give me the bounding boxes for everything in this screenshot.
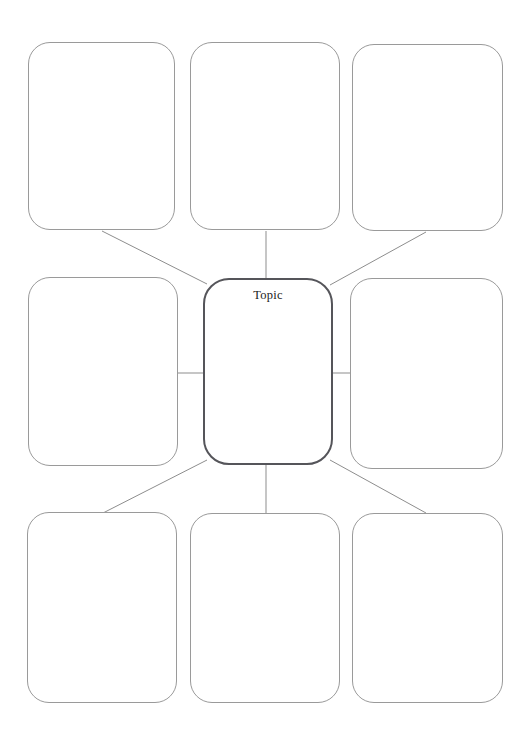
node-bottom-center[interactable] xyxy=(190,513,340,703)
node-top-left[interactable] xyxy=(28,42,175,230)
node-middle-left[interactable] xyxy=(28,277,178,466)
node-top-right[interactable] xyxy=(352,44,503,231)
node-bottom-left[interactable] xyxy=(27,512,177,703)
graphic-organizer-canvas: Topic xyxy=(0,0,531,746)
node-middle-right[interactable] xyxy=(350,278,503,469)
center-topic-node[interactable]: Topic xyxy=(203,278,333,465)
node-bottom-right[interactable] xyxy=(352,513,503,703)
connector-bottom-left xyxy=(103,460,207,513)
center-topic-label: Topic xyxy=(205,288,331,303)
node-top-center[interactable] xyxy=(190,42,340,230)
